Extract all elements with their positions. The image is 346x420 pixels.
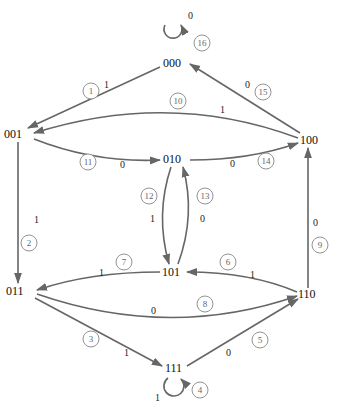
edge-16 <box>164 25 182 38</box>
edge-11 <box>34 139 160 160</box>
edge-number-2: 2 <box>21 235 37 251</box>
node-101: 101 <box>162 265 180 279</box>
node-010: 010 <box>163 152 181 166</box>
edge-13 <box>178 167 188 264</box>
svg-text:9: 9 <box>318 240 323 250</box>
edge-2-input: 1 <box>34 214 39 225</box>
edge-number-3: 3 <box>83 331 99 347</box>
edge-number-13: 13 <box>197 188 213 204</box>
edge-6 <box>187 272 297 292</box>
edge-number-15: 15 <box>255 84 271 100</box>
edge-10 <box>34 113 298 138</box>
svg-text:3: 3 <box>89 334 94 344</box>
svg-text:13: 13 <box>201 191 211 201</box>
svg-text:5: 5 <box>258 335 263 345</box>
edge-number-6: 6 <box>220 254 236 270</box>
node-110: 110 <box>298 287 316 301</box>
svg-text:6: 6 <box>226 257 231 267</box>
edge-3-input: 1 <box>124 347 129 358</box>
node-100: 100 <box>300 133 318 147</box>
state-diagram: 000 001 010 100 101 011 110 111 1 1 1 1 … <box>0 0 346 420</box>
node-111: 111 <box>165 361 182 375</box>
edge-number-1: 1 <box>83 83 99 99</box>
svg-text:1: 1 <box>89 86 94 96</box>
edge-number-5: 5 <box>252 332 268 348</box>
edge-4-input: 1 <box>155 392 160 403</box>
svg-text:2: 2 <box>27 238 32 248</box>
edge-3 <box>35 298 162 366</box>
edge-11-input: 0 <box>120 159 125 170</box>
svg-text:15: 15 <box>259 87 269 97</box>
edge-7-input: 1 <box>99 267 104 278</box>
edge-number-10: 10 <box>170 93 186 109</box>
node-000: 000 <box>163 56 181 70</box>
edge-number-8: 8 <box>197 296 213 312</box>
edge-9-input: 0 <box>313 217 318 228</box>
node-001: 001 <box>4 127 22 141</box>
edge-12 <box>162 167 171 264</box>
edge-8-input: 0 <box>151 305 156 316</box>
edge-number-12: 12 <box>141 188 157 204</box>
svg-text:10: 10 <box>174 96 184 106</box>
edge-10-input: 1 <box>220 104 225 115</box>
edge-12-input: 1 <box>150 213 155 224</box>
edge-number-14: 14 <box>258 153 274 169</box>
edge-8 <box>37 294 297 318</box>
edge-13-input: 0 <box>200 213 205 224</box>
edge-number-9: 9 <box>312 237 328 253</box>
svg-text:11: 11 <box>84 157 93 167</box>
edge-14-input: 0 <box>230 158 235 169</box>
edge-14 <box>190 143 298 160</box>
svg-text:8: 8 <box>203 299 208 309</box>
edge-15-input: 0 <box>245 79 250 90</box>
edge-number-11: 11 <box>80 154 96 170</box>
svg-text:7: 7 <box>122 257 127 267</box>
node-011: 011 <box>6 284 24 298</box>
edge-5-input: 0 <box>226 347 231 358</box>
edge-1-input: 1 <box>104 79 109 90</box>
svg-text:12: 12 <box>145 191 154 201</box>
edge-6-input: 1 <box>250 269 255 280</box>
edge-number-16: 16 <box>194 35 210 51</box>
edge-16-input: 0 <box>188 10 193 21</box>
svg-text:16: 16 <box>198 38 208 48</box>
edge-number-4: 4 <box>192 382 208 398</box>
svg-text:14: 14 <box>262 156 272 166</box>
edge-4 <box>164 378 184 396</box>
svg-text:4: 4 <box>198 385 203 395</box>
edge-number-7: 7 <box>116 254 132 270</box>
